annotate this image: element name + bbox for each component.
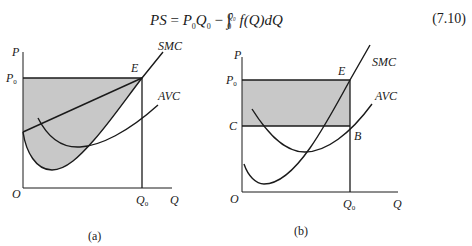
diagrams: P P0 E SMC AVC O Q0 Q (a) P P0 C E B SMC… [0, 0, 472, 246]
y-axis-label-b: P [233, 48, 242, 62]
avc-label-b: AVC [374, 89, 398, 103]
y-axis-label-a: P [11, 45, 20, 59]
p0-label-a: P0 [5, 71, 17, 86]
p0-label-b: P0 [225, 73, 237, 88]
point-e-label-b: E [337, 64, 346, 78]
avc-label-a: AVC [157, 89, 181, 103]
origin-label-a: O [12, 187, 21, 201]
q0-label-b: Q0 [343, 197, 356, 212]
panel-b: P P0 C E B SMC AVC O Q0 Q (b) [225, 45, 402, 238]
caption-b: (b) [294, 224, 308, 238]
caption-a: (a) [88, 229, 101, 243]
smc-label-a: SMC [158, 39, 183, 53]
smc-label-b: SMC [372, 55, 397, 69]
x-axis-label-a: Q [170, 193, 179, 207]
c-label-b: C [229, 119, 238, 133]
point-e-label-a: E [130, 61, 139, 75]
panel-a: P P0 E SMC AVC O Q0 Q (a) [5, 39, 183, 243]
q0-label-a: Q0 [136, 193, 149, 208]
point-b-label-b: B [354, 129, 362, 143]
origin-label-b: O [230, 192, 239, 206]
x-axis-label-b: Q [393, 197, 402, 211]
